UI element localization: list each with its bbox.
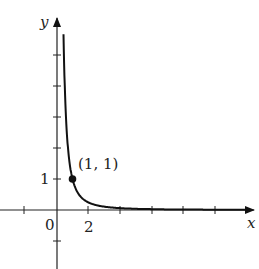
chart: y x 0 2 1 (1, 1) bbox=[0, 0, 259, 269]
point-label: (1, 1) bbox=[78, 155, 118, 173]
y-axis-label: y bbox=[39, 13, 49, 31]
point-marker bbox=[69, 175, 77, 183]
chart-svg: y x 0 2 1 (1, 1) bbox=[0, 0, 259, 269]
origin-label: 0 bbox=[45, 216, 55, 234]
y-tick-label-1: 1 bbox=[40, 170, 50, 188]
curve bbox=[64, 34, 248, 210]
x-tick-label-2: 2 bbox=[84, 218, 94, 236]
x-axis-label: x bbox=[247, 214, 256, 232]
